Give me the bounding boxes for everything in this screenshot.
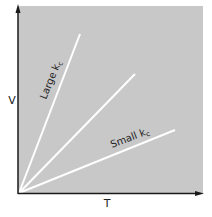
diagram: V T Large kc Small kc: [0, 0, 212, 217]
x-axis-label: T: [103, 197, 111, 210]
y-axis-label: V: [8, 94, 16, 107]
